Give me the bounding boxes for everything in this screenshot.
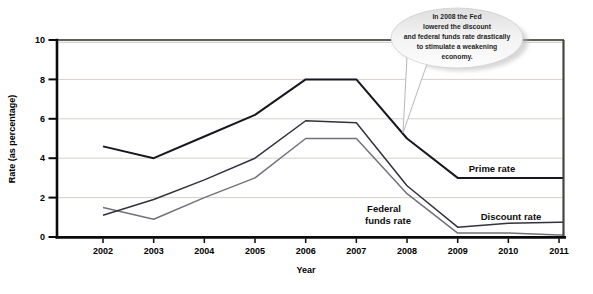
x-tick-label: 2005 [245, 246, 265, 256]
interest-rates-figure: 0246810200220032004200520062007200820092… [0, 0, 593, 294]
x-tick-label: 2011 [549, 246, 569, 256]
x-tick-label: 2002 [93, 246, 113, 256]
callout-text-line: lowered the discount [423, 23, 492, 30]
x-tick-label: 2004 [194, 246, 214, 256]
y-tick-label: 6 [40, 114, 45, 124]
y-tick-label: 10 [35, 35, 45, 45]
callout-text-line: economy. [441, 53, 472, 61]
x-tick-label: 2003 [144, 246, 164, 256]
x-tick-label: 2010 [498, 246, 518, 256]
federal-funds-rate-label: funds rate [365, 215, 411, 226]
callout-bubble: In 2008 the Fedlowered the discountand f… [391, 8, 528, 133]
x-tick-label: 2008 [397, 246, 417, 256]
x-tick-label: 2009 [448, 246, 468, 256]
federal-funds-rate-label: Federal [367, 203, 401, 214]
y-tick-label: 2 [40, 193, 45, 203]
rates-line-chart: 0246810200220032004200520062007200820092… [0, 0, 593, 294]
y-tick-label: 8 [40, 75, 45, 85]
x-axis-title: Year [296, 265, 316, 275]
discount-rate-label: Discount rate [481, 211, 542, 222]
prime-rate-label: Prime rate [469, 163, 515, 174]
y-tick-label: 0 [40, 232, 45, 242]
callout-tail [403, 57, 428, 133]
series-labels: Prime rateDiscount rateFederalfunds rate [365, 163, 541, 226]
callout-text-line: to stimulate a weakening [417, 43, 497, 51]
callout-text-line: In 2008 the Fed [432, 13, 481, 20]
x-tick-label: 2007 [346, 246, 366, 256]
y-axis-title: Rate (as percentage) [7, 95, 17, 184]
x-tick-label: 2006 [296, 246, 316, 256]
callout-text-line: and federal funds rate drastically [404, 33, 511, 41]
y-tick-label: 4 [40, 153, 45, 163]
